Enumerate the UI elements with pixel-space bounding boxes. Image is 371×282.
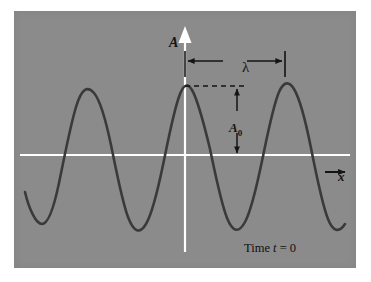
time-caption: Time t = 0: [244, 242, 296, 255]
amplitude-label: A0: [229, 121, 242, 138]
time-caption-value: = 0: [280, 241, 296, 255]
time-caption-variable: t: [273, 241, 276, 255]
figure-panel: A λ A0 x Time t = 0: [14, 11, 356, 268]
amplitude-label-subscript: 0: [238, 128, 243, 138]
wave-diagram-svg: [14, 11, 356, 268]
figure-root: A λ A0 x Time t = 0: [0, 0, 371, 282]
wavelength-label: λ: [242, 60, 249, 75]
time-caption-prefix: Time: [244, 241, 270, 255]
y-axis-arrowhead-icon: [179, 26, 192, 43]
x-axis-label: x: [338, 170, 345, 183]
amplitude-label-base: A: [229, 120, 238, 135]
y-axis-label: A: [169, 36, 178, 50]
